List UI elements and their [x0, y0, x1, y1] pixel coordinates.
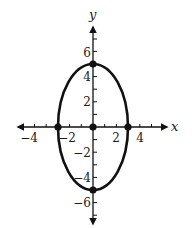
y-tick-label: −2	[73, 146, 91, 160]
y-tick-label: −4	[73, 171, 91, 185]
y-tick-label: 4	[83, 70, 91, 84]
y-tick-label: −6	[73, 196, 91, 210]
point-left-covertex	[54, 123, 61, 130]
x-tick-label: −4	[20, 131, 38, 145]
point-top-vertex	[89, 60, 96, 67]
x-tick-label: −2	[58, 131, 76, 145]
ellipse-chart: y x −4 −2 2 4 6 4 2 −2 −4 −6	[0, 0, 192, 228]
y-tick-label: 6	[83, 46, 91, 60]
x-axis-label: x	[171, 119, 179, 134]
point-right-covertex	[124, 123, 131, 130]
x-tick-label: 4	[136, 131, 144, 145]
point-center	[89, 123, 96, 130]
x-tick-label: 2	[112, 131, 120, 145]
point-bottom-vertex	[89, 186, 96, 193]
y-axis-label: y	[88, 7, 97, 22]
y-tick-label: 2	[83, 95, 91, 109]
